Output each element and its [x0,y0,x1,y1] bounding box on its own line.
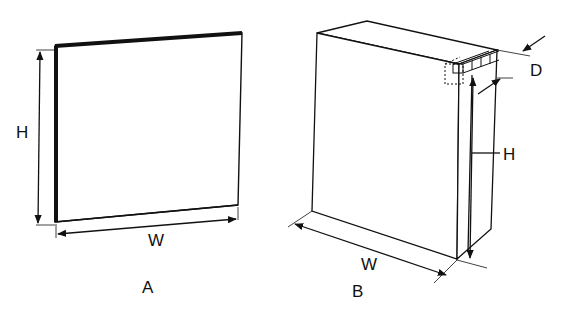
height-arrow-a [38,52,40,223]
dimension-diagram: H W A [0,0,563,309]
depth-label-b: D [530,61,542,80]
height-label-b: H [503,145,515,164]
width-label-a: W [148,231,164,250]
width-label-b: W [361,255,377,274]
figure-a-panel [36,33,242,238]
depth-arrow-top [523,36,545,51]
width-arrow-a [58,219,236,234]
caption-a: A [142,278,154,297]
caption-b: B [352,282,363,301]
height-label-a: H [16,123,28,142]
